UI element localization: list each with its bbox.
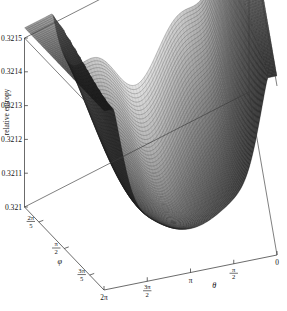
svg-text:0.3211: 0.3211 bbox=[1, 169, 22, 178]
tick-fraction: 3π5 bbox=[77, 267, 85, 282]
plot-canvas: 0.32150.32140.32130.32120.32110.321relat… bbox=[0, 0, 287, 311]
svg-text:relative entropy: relative entropy bbox=[2, 88, 11, 135]
svg-text:5: 5 bbox=[29, 222, 33, 229]
tick-fraction: 2π5 bbox=[27, 214, 35, 229]
svg-text:π: π bbox=[189, 276, 193, 285]
svg-text:θ: θ bbox=[212, 281, 216, 290]
svg-text:π: π bbox=[232, 266, 236, 273]
svg-text:2: 2 bbox=[55, 248, 58, 255]
svg-text:0.3215: 0.3215 bbox=[1, 34, 22, 43]
surface-plot-figure: 0.32150.32140.32130.32120.32110.321relat… bbox=[0, 0, 287, 311]
svg-text:3π: 3π bbox=[78, 267, 85, 274]
svg-text:5: 5 bbox=[80, 275, 84, 282]
svg-text:3π: 3π bbox=[144, 283, 151, 290]
svg-text:0.3214: 0.3214 bbox=[1, 67, 22, 76]
tick-fraction: π2 bbox=[230, 266, 238, 281]
svg-text:0: 0 bbox=[275, 258, 279, 267]
svg-text:0.3212: 0.3212 bbox=[1, 135, 22, 144]
svg-text:2π: 2π bbox=[27, 214, 34, 221]
svg-text:π: π bbox=[55, 240, 59, 247]
svg-text:2: 2 bbox=[232, 273, 235, 280]
svg-text:2π: 2π bbox=[100, 293, 108, 302]
surface-mesh bbox=[25, 0, 278, 229]
svg-text:2: 2 bbox=[146, 291, 149, 298]
svg-text:φ: φ bbox=[58, 257, 63, 266]
tick-fraction: 3π2 bbox=[143, 283, 151, 298]
tick-fraction: π2 bbox=[52, 240, 60, 255]
svg-text:0.321: 0.321 bbox=[5, 203, 22, 212]
